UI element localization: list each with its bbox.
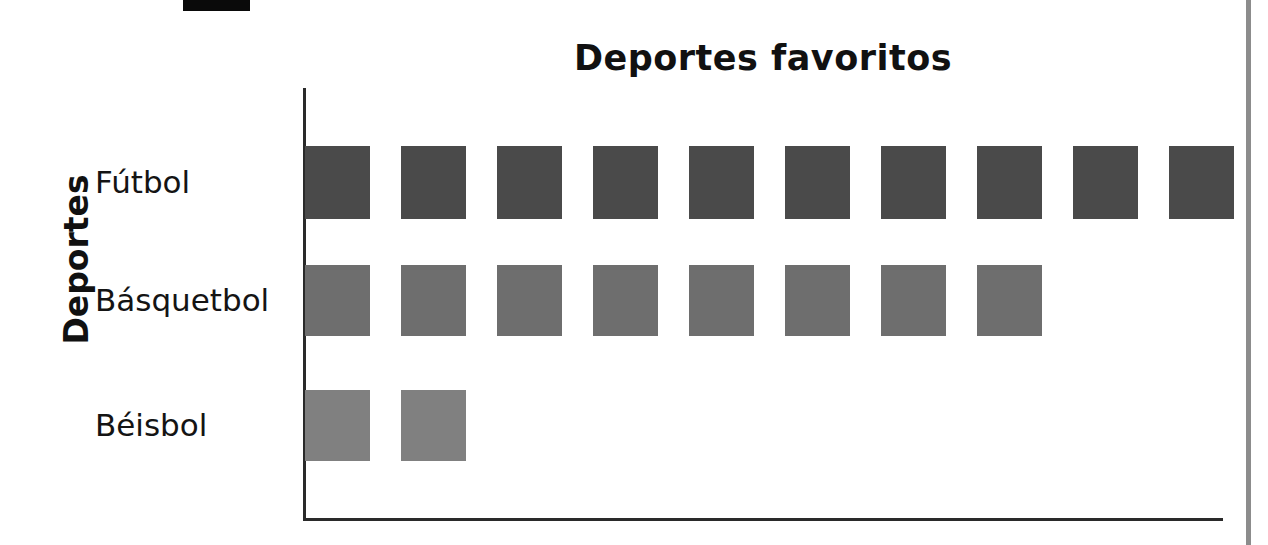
pictograph-unit-square <box>689 265 754 336</box>
pictograph-unit-square <box>593 265 658 336</box>
y-axis-label: Deportes <box>57 160 96 360</box>
pictograph-unit-square <box>497 146 562 219</box>
pictograph-unit-square <box>305 390 370 461</box>
pictograph-unit-square <box>1073 146 1138 219</box>
pictograph-unit-square <box>401 265 466 336</box>
pictograph-cells-futbol <box>305 145 1265 219</box>
pictograph-unit-square <box>977 265 1042 336</box>
pictograph-unit-square <box>401 146 466 219</box>
x-axis-line <box>303 518 1223 521</box>
pictograph-unit-square <box>401 390 466 461</box>
pictograph-unit-square <box>1169 146 1234 219</box>
pictograph-unit-square <box>785 146 850 219</box>
pictograph-unit-square <box>497 265 562 336</box>
pictograph-cells-basquetbol <box>305 263 1073 337</box>
pictograph-unit-square <box>305 265 370 336</box>
pictograph-unit-square <box>881 265 946 336</box>
pictograph-unit-square <box>977 146 1042 219</box>
pictograph-unit-square <box>305 146 370 219</box>
category-label-beisbol: Béisbol <box>95 388 295 462</box>
chart-page: Deportes favoritos Deportes Fútbol Básqu… <box>0 0 1268 545</box>
right-page-edge-artifact <box>1246 0 1251 545</box>
page-title: Deportes favoritos <box>303 38 1223 78</box>
pictograph-unit-square <box>689 146 754 219</box>
category-label-futbol: Fútbol <box>95 145 295 219</box>
category-label-basquetbol: Básquetbol <box>95 263 295 337</box>
pictograph-unit-square <box>593 146 658 219</box>
pictograph-cells-beisbol <box>305 388 497 462</box>
top-black-mark-artifact <box>183 0 250 11</box>
pictograph-unit-square <box>881 146 946 219</box>
pictograph-unit-square <box>785 265 850 336</box>
